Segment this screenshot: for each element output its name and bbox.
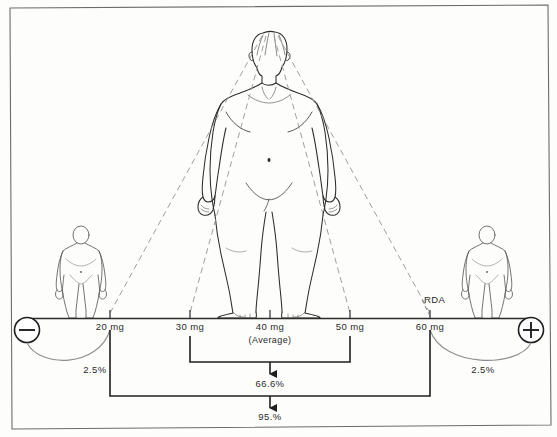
center-person-illustration bbox=[198, 31, 340, 318]
plus-endpoint-marker bbox=[519, 318, 544, 343]
tick-label-60mg: 60 mg bbox=[416, 321, 444, 332]
dash-to-20mg bbox=[110, 36, 262, 313]
left-tail-percent-label: 2.5% bbox=[83, 364, 106, 375]
dash-to-50mg bbox=[274, 36, 350, 313]
right-tail-percent-label: 2.5% bbox=[471, 364, 494, 375]
projection-dashed-lines bbox=[110, 36, 430, 313]
average-label: (Average) bbox=[249, 335, 292, 345]
tick-label-50mg: 50 mg bbox=[336, 321, 364, 332]
left-person-illustration bbox=[56, 226, 107, 318]
middle-percent-label: 66.6% bbox=[256, 378, 285, 389]
dash-to-60mg bbox=[278, 36, 430, 313]
minus-endpoint-marker bbox=[15, 318, 40, 343]
right-tail-arc bbox=[430, 330, 531, 360]
outer-percent-label: 95.% bbox=[258, 411, 281, 422]
dash-to-30mg bbox=[190, 36, 266, 313]
rda-distribution-figure: 20 mg 30 mg 40 mg 50 mg 60 mg (Average) … bbox=[0, 0, 557, 437]
tick-label-20mg: 20 mg bbox=[96, 321, 124, 332]
rda-label: RDA bbox=[424, 294, 445, 305]
right-person-illustration bbox=[462, 226, 513, 318]
tick-label-30mg: 30 mg bbox=[176, 321, 204, 332]
tick-label-40mg: 40 mg bbox=[256, 321, 284, 332]
measurement-axis bbox=[28, 310, 531, 319]
